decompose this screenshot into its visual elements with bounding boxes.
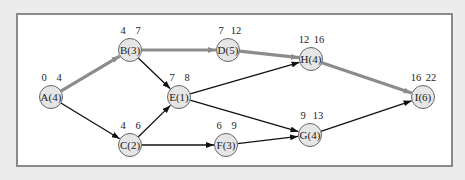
earliest-start-label: 7 [169,72,174,83]
node-label: G(4) [300,129,321,142]
earliest-finish-label: 7 [135,25,140,36]
earliest-start-label: 16 [411,72,422,83]
earliest-start-label: 4 [120,25,126,36]
node-d: D(5)712 [217,25,242,62]
node-label: E(1) [169,91,189,104]
edge-a-b-critical [61,56,120,91]
edge-d-h-critical [239,51,299,58]
edge-h-i-critical [322,63,412,93]
node-f: F(3)69 [215,120,238,157]
node-c: C(2)46 [119,120,142,157]
earliest-start-label: 12 [299,34,310,45]
edge-e-h [190,62,299,94]
diagram-stage: A(4)04B(3)47C(2)46D(5)712E(1)78F(3)69G(4… [0,0,465,180]
node-i: I(6)1622 [411,72,437,109]
edge-g-i [321,101,412,132]
edge-c-e [138,105,170,137]
network-diagram: A(4)04B(3)47C(2)46D(5)712E(1)78F(3)69G(4… [0,0,465,180]
edge-a-c [61,103,120,139]
node-label: F(3) [217,139,236,152]
earliest-start-label: 9 [300,110,305,121]
node-e: E(1)78 [168,72,191,109]
earliest-start-label: 0 [41,72,46,83]
edge-f-g [237,136,298,143]
earliest-finish-label: 12 [231,25,242,36]
node-g: G(4)913 [299,110,324,147]
earliest-finish-label: 8 [184,72,189,83]
node-h: H(4)1216 [299,34,325,71]
earliest-finish-label: 9 [231,120,236,131]
edge-e-g [190,100,299,132]
earliest-finish-label: 6 [135,120,140,131]
node-label: H(4) [301,53,322,66]
node-b: B(3)47 [119,25,142,62]
node-label: I(6) [415,91,432,104]
edge-b-e [138,58,170,89]
earliest-finish-label: 16 [314,34,325,45]
node-label: B(3) [120,44,141,57]
node-label: A(4) [41,91,62,104]
earliest-start-label: 4 [120,120,126,131]
node-label: D(5) [218,44,239,57]
earliest-start-label: 7 [218,25,223,36]
earliest-finish-label: 13 [313,110,324,121]
earliest-start-label: 6 [216,120,221,131]
nodes-layer: A(4)04B(3)47C(2)46D(5)712E(1)78F(3)69G(4… [40,25,437,157]
earliest-finish-label: 4 [56,72,62,83]
node-label: C(2) [120,139,141,152]
node-a: A(4)04 [40,72,63,109]
earliest-finish-label: 22 [426,72,437,83]
